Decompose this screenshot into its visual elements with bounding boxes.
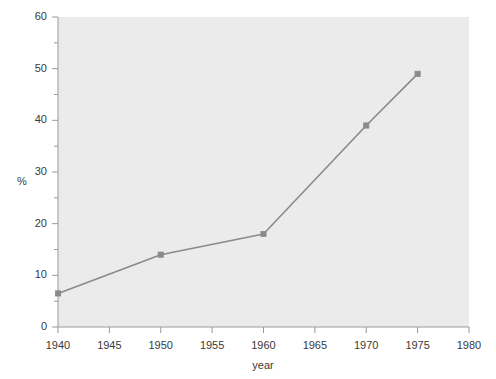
plot-area-background — [58, 17, 469, 327]
y-tick-label: 50 — [35, 62, 47, 74]
x-tick-label: 1940 — [46, 339, 70, 351]
x-tick-label: 1965 — [303, 339, 327, 351]
y-tick-label: 60 — [35, 10, 47, 22]
x-tick-label: 1945 — [97, 339, 121, 351]
x-tick-label: 1960 — [251, 339, 275, 351]
y-tick-label: 0 — [41, 320, 47, 332]
line-chart: 0102030405060 19401945195019551960196519… — [0, 0, 496, 379]
y-tick-label: 10 — [35, 268, 47, 280]
data-point-marker — [261, 231, 266, 236]
data-point-marker — [55, 291, 60, 296]
x-tick-label: 1975 — [405, 339, 429, 351]
data-point-marker — [158, 252, 163, 257]
y-tick-label: 30 — [35, 165, 47, 177]
y-tick-label: 40 — [35, 113, 47, 125]
x-axis-title: year — [252, 359, 274, 371]
y-tick-label: 20 — [35, 217, 47, 229]
y-axis-title: % — [17, 175, 27, 187]
x-tick-label: 1980 — [457, 339, 481, 351]
x-tick-label: 1955 — [200, 339, 224, 351]
x-tick-label: 1970 — [354, 339, 378, 351]
data-point-marker — [364, 123, 369, 128]
chart-figure: 0102030405060 19401945195019551960196519… — [0, 0, 496, 379]
x-tick-label: 1950 — [149, 339, 173, 351]
x-axis-tick-labels: 194019451950195519601965197019751980 — [46, 339, 481, 351]
data-point-marker — [415, 71, 420, 76]
